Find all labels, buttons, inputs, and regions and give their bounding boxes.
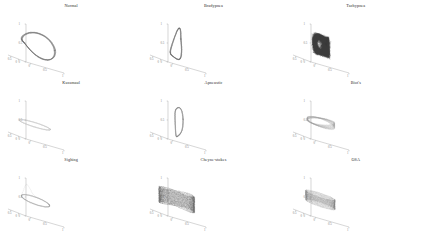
orbit-path [19, 119, 50, 130]
orbit-path [22, 32, 55, 60]
y-tick-label: 0 [158, 214, 160, 218]
x-tick-label: 0.5 [328, 222, 332, 226]
x-tick-label: 0.5 [328, 145, 332, 149]
z-tick-label: 0.5 [161, 41, 165, 45]
plot-area: 00.510.5010.50 [0, 154, 142, 231]
panel-biot-s: Biot's00.510.5010.50 [285, 77, 427, 154]
z-tick-label: 1 [161, 22, 163, 26]
x-tick-label: 0 [171, 141, 173, 145]
x-tick-label: 1 [204, 228, 206, 231]
y-tick-label: 0.5 [292, 211, 296, 215]
attractor-trajectories [305, 190, 335, 210]
plot-area: 00.510.5010.50 [285, 77, 427, 154]
x-tick-label: 0.5 [185, 222, 189, 226]
y-tick-label: 0 [15, 137, 17, 141]
y-tick-label: 0 [300, 60, 302, 64]
panel-tachypnea: Tachypnea00.510.5010.50 [285, 0, 427, 77]
z-tick-label: 1 [161, 99, 163, 103]
x-tick-label: 0 [313, 141, 315, 145]
z-tick-label: 1 [303, 99, 305, 103]
orbit-path [19, 119, 50, 130]
x-tick-label: 1 [347, 228, 349, 231]
panel-bradypnea: Bradypnea00.510.5010.50 [142, 0, 284, 77]
orbit-path [22, 33, 55, 61]
orbit-path [175, 107, 184, 136]
z-tick-label: 0.5 [303, 41, 307, 45]
z-tick-label: 1 [161, 176, 163, 180]
x-tick-label: 0.5 [43, 68, 47, 72]
x-tick-label: 0 [29, 64, 31, 68]
orbit-path [21, 32, 55, 60]
plot-area: 00.510.5010.50 [142, 77, 284, 154]
y-tick-label: 0.5 [8, 134, 12, 138]
z-tick-label: 1 [303, 22, 305, 26]
plot-area: 00.510.5010.50 [285, 0, 427, 77]
y-tick-label: 0 [300, 214, 302, 218]
z-tick-label: 0 [303, 214, 305, 218]
attractor-svg: 00.510.5010.50 [0, 77, 142, 154]
x-tick-label: 0.5 [43, 145, 47, 149]
orbit-path [19, 119, 50, 130]
orbit-path [21, 33, 55, 60]
z-tick-label: 0 [161, 137, 163, 141]
plot-area: 00.510.5010.50 [0, 77, 142, 154]
attractor-trajectories [175, 107, 184, 137]
x-tick-label: 0 [313, 64, 315, 68]
y-tick-label: 0 [158, 60, 160, 64]
y-tick-label: 0 [300, 137, 302, 141]
orbit-path [19, 119, 50, 130]
y-tick-label: 0.5 [150, 211, 154, 215]
y-tick-label: 0.5 [8, 57, 12, 61]
orbit-path [21, 32, 56, 60]
orbit-path [21, 194, 49, 207]
orbit-path [21, 194, 49, 207]
x-tick-label: 0.5 [43, 222, 47, 226]
z-tick-label: 1 [18, 99, 20, 103]
z-tick-label: 0 [18, 214, 20, 218]
orbit-path [19, 119, 50, 130]
x-tick-label: 0 [29, 141, 31, 145]
x-tick-label: 0.5 [185, 145, 189, 149]
y-tick-label: 0 [158, 137, 160, 141]
attractor-trajectories [311, 32, 330, 59]
z-tick-label: 1 [18, 176, 20, 180]
attractor-svg: 00.510.5010.50 [285, 77, 427, 154]
orbit-path [19, 120, 50, 131]
z-tick-label: 1 [18, 22, 20, 26]
panel-normal: Normal00.510.5010.50 [0, 0, 142, 77]
orbit-path [21, 194, 49, 207]
orbit-path [19, 119, 50, 130]
y-tick-label: 0 [15, 60, 17, 64]
z-tick-label: 0 [161, 214, 163, 218]
orbit-path [21, 195, 49, 208]
x-tick-label: 0.5 [328, 68, 332, 72]
x-tick-label: 0 [171, 218, 173, 222]
attractor-svg: 00.510.5010.50 [142, 0, 284, 77]
plot-area: 00.510.5010.50 [142, 154, 284, 231]
orbit-path [19, 119, 50, 130]
z-tick-label: 0.5 [18, 41, 22, 45]
x-tick-label: 1 [62, 228, 64, 231]
orbit-path [21, 195, 49, 208]
y-tick-label: 0.5 [292, 134, 296, 138]
z-tick-label: 0 [161, 60, 163, 64]
z-tick-label: 1 [303, 176, 305, 180]
z-tick-label: 0 [303, 137, 305, 141]
x-tick-label: 0 [171, 64, 173, 68]
y-tick-label: 0.5 [8, 211, 12, 215]
panel-cheyne-stokes: Cheyne-stokes00.510.5010.50 [142, 154, 284, 231]
orbit-path [21, 195, 49, 208]
orbit-path [21, 32, 56, 60]
attractor-svg: 00.510.5010.50 [0, 0, 142, 77]
orbit-path [19, 119, 50, 130]
orbit-path [19, 120, 50, 131]
orbit-path [21, 194, 49, 207]
orbit-path [21, 184, 49, 207]
attractor-trajectories [159, 186, 196, 213]
plot-area: 00.510.5010.50 [142, 0, 284, 77]
attractor-trajectories [21, 184, 49, 207]
z-tick-label: 0.5 [161, 118, 165, 122]
attractor-svg: 00.510.5010.50 [285, 0, 427, 77]
y-tick-label: 0.5 [150, 57, 154, 61]
y-tick-label: 0.5 [292, 57, 296, 61]
